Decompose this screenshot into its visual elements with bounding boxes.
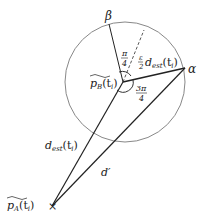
angle-top-den: 4 [121, 59, 127, 68]
angle-bottom-num: 3π [136, 84, 147, 93]
dest-radius-label: dest(ti) [145, 56, 178, 70]
beta-label: β [104, 9, 112, 23]
beta-radius-line [109, 24, 123, 82]
diagram-canvas: × β α π 4 3π 4 ε 2 dest(ti) pB(ti) dest(… [0, 0, 198, 219]
pa-x-mark: × [48, 200, 57, 213]
frac-den: 2 [138, 63, 144, 71]
angle-bottom-den: 4 [138, 94, 144, 103]
alpha-radius-line [123, 68, 185, 82]
dprime-label: d′ [101, 166, 111, 179]
angle-top-num: π [121, 49, 128, 58]
pa-label: pA(ti) [7, 199, 34, 213]
dest-line-label: dest(ti) [45, 139, 78, 153]
pb-label: pB(ti) [90, 77, 117, 91]
frac-num: ε [139, 54, 143, 62]
alpha-label: α [188, 62, 196, 76]
